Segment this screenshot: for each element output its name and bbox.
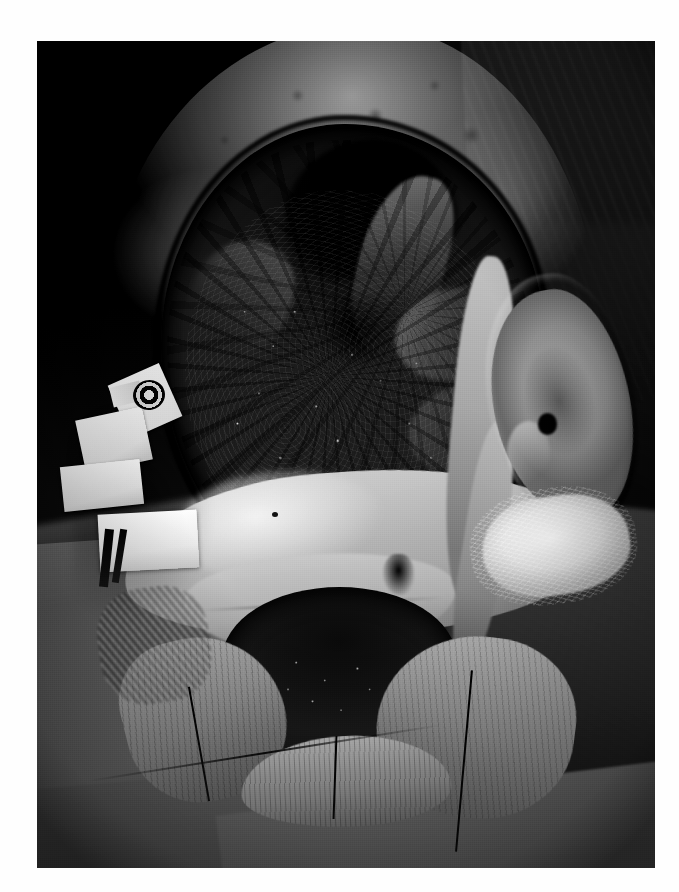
scalp-mottling: [124, 41, 581, 289]
necrotic-crust-speckle: [167, 140, 538, 595]
granulation-nodules: [173, 157, 531, 587]
tube-line-a: [99, 529, 114, 587]
exposed-tissue-strands: [91, 580, 217, 710]
clinical-photograph: [37, 41, 655, 868]
suture-line-midline: [332, 736, 337, 819]
ear-concha: [515, 341, 604, 460]
cavity-margin-rim: [154, 115, 550, 611]
dark-commissure-notch: [383, 554, 414, 595]
drape-lower-left: [37, 526, 322, 868]
drape-lower-left-edge: [37, 488, 264, 619]
tape-strip-three: [97, 510, 199, 573]
neck-flap-right: [367, 625, 585, 830]
cavity-ridge-left: [173, 225, 308, 369]
suture-line-right: [455, 670, 473, 851]
cavity-deep-void-upper: [284, 140, 457, 281]
ear-tragus: [507, 421, 550, 487]
drape-bottom-secondary: [216, 756, 655, 868]
tube-connector-icon: [130, 377, 168, 414]
tube-line-b: [112, 529, 128, 583]
flap-specular-highlight: [168, 460, 388, 589]
photo-vignette: [37, 41, 655, 868]
tape-strip-one: [75, 407, 153, 474]
ear-helix-shading: [467, 262, 655, 540]
granulation-texture: [185, 190, 519, 587]
skin-mark-left: [272, 512, 278, 517]
tape-cast-shadow: [74, 405, 210, 620]
gauze-fiber-texture: [462, 477, 643, 615]
drape-right-lower: [431, 490, 655, 799]
mid-tissue-flap-band: [118, 455, 598, 653]
drape-upper-right: [460, 41, 655, 410]
cavity-ridge-inferior: [395, 372, 519, 488]
tape-strip-upper: [108, 363, 182, 438]
lower-flap-lobe: [183, 547, 460, 660]
skin-mark-right: [513, 512, 518, 518]
tape-strip-two: [60, 459, 145, 513]
preauricular-flap-lower: [444, 420, 526, 672]
suture-line-left: [188, 687, 210, 801]
ear-auricle: [475, 279, 649, 531]
scalp-flap-shading: [105, 41, 599, 620]
incision-line-diagonal: [88, 724, 442, 782]
drape-upper-right-soft: [531, 223, 655, 554]
tube-body: [109, 381, 144, 408]
photo-grain: [37, 41, 655, 868]
page-canvas: [0, 0, 679, 892]
cavity-ridge-right: [338, 166, 466, 363]
flap-crease-line: [198, 597, 445, 612]
cavity-ridge-lower-right: [385, 275, 523, 395]
preauricular-flap-strip: [436, 254, 528, 605]
gauze-dressing-pad: [476, 486, 637, 605]
lower-neck-wound: [222, 587, 457, 769]
lower-wound-granules: [235, 603, 439, 752]
cavity-deep-void-center: [321, 289, 401, 363]
operative-background: [37, 41, 655, 868]
neck-flap-left: [106, 619, 302, 818]
ear-canal: [538, 413, 558, 435]
neck-flap-inferior: [239, 730, 454, 832]
scalp-flap-rim: [105, 41, 599, 620]
central-wound-cavity: [161, 124, 544, 604]
drape-bottom: [37, 746, 537, 868]
